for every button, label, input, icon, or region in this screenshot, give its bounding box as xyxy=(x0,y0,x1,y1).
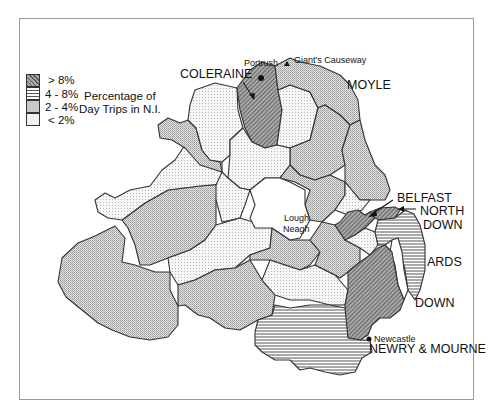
label-down: DOWN xyxy=(415,297,455,310)
label-north-down-line1: NORTH xyxy=(420,205,464,218)
portrush-marker-icon xyxy=(258,75,264,81)
label-ards: ARDS xyxy=(427,256,462,269)
legend-label-under-2: < 2% xyxy=(48,115,75,127)
label-coleraine: COLERAINE xyxy=(180,68,252,81)
legend-swatch-over-8 xyxy=(26,74,40,87)
legend-label-over-8: > 8% xyxy=(48,75,75,87)
legend-swatch-4-8 xyxy=(26,87,40,100)
legend-label-2-4: 2 - 4% xyxy=(45,102,78,114)
label-belfast: BELFAST xyxy=(397,192,452,205)
legend-title-line1: Percentage of xyxy=(84,91,156,103)
legend-label-4-8: 4 - 8% xyxy=(45,89,78,101)
label-moyle: MOYLE xyxy=(347,79,391,92)
legend-swatch-under-2 xyxy=(26,113,40,126)
legend-title-line2: Day Trips in N.I. xyxy=(79,104,161,116)
label-giants-causeway: Giant's Causeway xyxy=(294,56,366,65)
legend-swatch-2-4 xyxy=(26,100,40,113)
label-lough-neagh-line1: Lough xyxy=(284,214,309,223)
label-newry-mourne: NEWRY & MOURNE xyxy=(369,343,486,356)
label-north-down-line2: DOWN xyxy=(423,219,463,232)
label-portrush: Portrush xyxy=(244,59,278,68)
label-lough-neagh-line2: Neagh xyxy=(283,225,310,234)
newcastle-marker-icon xyxy=(367,337,372,342)
label-newcastle: Newcastle xyxy=(374,335,416,344)
